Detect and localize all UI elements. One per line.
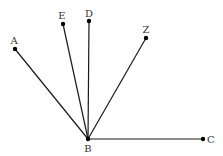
points-group: [13, 19, 205, 141]
geometry-diagram: AEDZBC: [0, 0, 223, 156]
point-a: [13, 47, 17, 51]
label-e: E: [58, 10, 65, 21]
segment-bd: [88, 21, 89, 139]
segment-be: [63, 24, 88, 139]
point-d: [87, 19, 91, 23]
label-c: C: [207, 134, 215, 145]
segment-bz: [88, 38, 146, 139]
label-z: Z: [143, 24, 150, 35]
segment-ba: [15, 49, 88, 139]
label-b: B: [84, 143, 91, 154]
point-c: [201, 137, 205, 141]
label-a: A: [9, 35, 18, 46]
point-z: [144, 36, 148, 40]
point-e: [61, 22, 65, 26]
segments-group: [15, 21, 203, 139]
label-d: D: [85, 8, 93, 19]
point-b: [86, 137, 90, 141]
